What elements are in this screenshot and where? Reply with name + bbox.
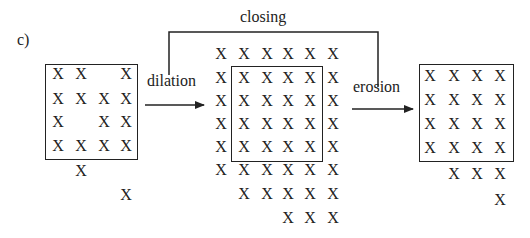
input-mark: X [118,138,134,154]
dilated-mark: X [280,162,296,178]
dilated-mark: X [280,116,296,132]
dilated-mark: X [213,46,229,62]
dilated-mark: X [325,186,341,202]
dilated-mark: X [302,186,318,202]
closed-mark: X [469,68,485,84]
closed-mark: X [492,68,508,84]
dilated-mark: X [236,139,252,155]
dilated-mark: X [213,116,229,132]
dilated-mark: X [280,139,296,155]
dilated-mark: X [325,162,341,178]
dilated-mark: X [302,116,318,132]
dilated-mark: X [259,139,275,155]
closed-mark: X [469,116,485,132]
closed-mark: X [469,140,485,156]
closed-mark: X [446,68,462,84]
input-mark: X [50,66,66,82]
closed-mark: X [492,116,508,132]
dilated-mark: X [236,116,252,132]
dilated-mark: X [213,162,229,178]
dilated-mark: X [236,162,252,178]
input-mark: X [96,138,112,154]
dilated-mark: X [302,210,318,226]
dilated-mark: X [302,139,318,155]
dilated-mark: X [259,162,275,178]
input-mark: X [96,114,112,130]
dilated-mark: X [302,46,318,62]
input-mark: X [73,138,89,154]
dilated-mark: X [302,93,318,109]
dilated-mark: X [280,70,296,86]
input-mark: X [73,66,89,82]
closed-mark: X [469,92,485,108]
dilated-mark: X [325,70,341,86]
dilated-mark: X [325,46,341,62]
input-mark: X [50,138,66,154]
dilated-mark: X [280,46,296,62]
input-mark: X [118,187,134,203]
dilated-mark: X [280,186,296,202]
dilated-mark: X [213,93,229,109]
closed-mark: X [492,166,508,182]
dilated-mark: X [280,210,296,226]
input-mark: X [73,163,89,179]
dilated-mark: X [325,210,341,226]
input-mark: X [96,91,112,107]
dilated-mark: X [259,116,275,132]
input-mark: X [118,91,134,107]
closed-mark: X [446,140,462,156]
closed-mark: X [492,140,508,156]
dilated-mark: X [325,93,341,109]
closed-mark: X [422,68,438,84]
input-mark: X [50,91,66,107]
closed-mark: X [492,92,508,108]
closed-mark: X [446,166,462,182]
dilated-mark: X [325,139,341,155]
input-mark: X [118,114,134,130]
dilated-mark: X [236,93,252,109]
input-mark: X [118,66,134,82]
dilated-mark: X [236,46,252,62]
dilated-mark: X [302,162,318,178]
dilated-mark: X [325,116,341,132]
morphology-closing-diagram: c) closing dilation erosion XXXXXXXXXXXX… [0,0,530,238]
dilated-mark: X [259,70,275,86]
dilated-mark: X [302,70,318,86]
closed-mark: X [446,92,462,108]
dilated-mark: X [259,93,275,109]
closed-mark: X [422,140,438,156]
closed-mark: X [469,166,485,182]
dilated-mark: X [213,139,229,155]
dilated-mark: X [236,70,252,86]
dilated-mark: X [259,46,275,62]
dilated-mark: X [259,186,275,202]
closed-mark: X [422,92,438,108]
input-mark: X [50,114,66,130]
input-mark: X [73,91,89,107]
dilated-mark: X [213,70,229,86]
dilated-mark: X [280,93,296,109]
closed-mark: X [492,192,508,208]
dilated-mark: X [236,186,252,202]
closed-mark: X [422,116,438,132]
closed-mark: X [446,116,462,132]
